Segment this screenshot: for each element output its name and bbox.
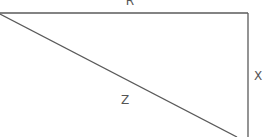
label-r: R xyxy=(126,0,134,8)
label-z: Z xyxy=(121,93,129,107)
right-triangle-diagram: R X Z xyxy=(0,0,268,137)
edge-z-hypotenuse xyxy=(0,14,237,137)
label-x: X xyxy=(254,69,262,83)
